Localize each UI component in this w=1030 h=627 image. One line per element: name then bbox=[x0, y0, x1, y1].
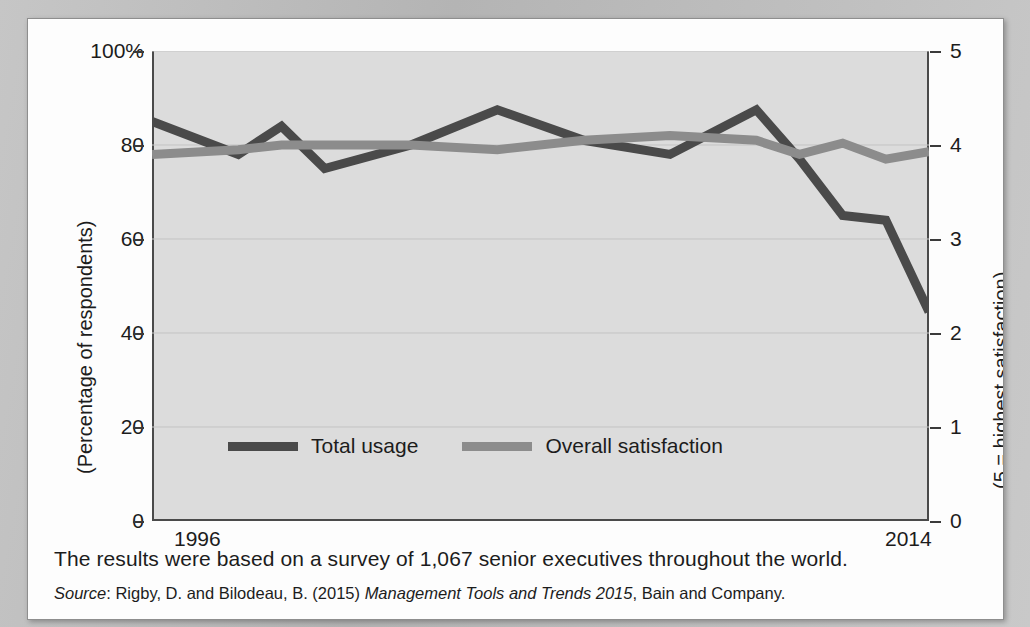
chart-legend: Total usageOverall satisfaction bbox=[228, 434, 723, 458]
y-axis-right-ticks: 012345 bbox=[936, 51, 996, 521]
figure-note: The results were based on a survey of 1,… bbox=[54, 547, 848, 571]
source-authors: Rigby, D. and Bilodeau, B. (2015) bbox=[115, 584, 364, 602]
chart-figure: 020406080100% 012345 (Percentage of resp… bbox=[28, 19, 1003, 619]
y-right-tick-mark bbox=[930, 51, 941, 53]
y-right-tick-2: 2 bbox=[950, 322, 962, 343]
y-left-tick-mark bbox=[133, 145, 144, 147]
source-title: Management Tools and Trends 2015 bbox=[365, 584, 633, 602]
y-left-tick-mark bbox=[133, 427, 144, 429]
y-left-tick-mark bbox=[133, 51, 144, 53]
y-right-tick-4: 4 bbox=[950, 134, 962, 155]
y-axis-left-title: (Percentage of respondents) bbox=[74, 221, 97, 475]
legend-item-total-usage: Total usage bbox=[228, 434, 418, 458]
series-lines bbox=[152, 110, 929, 312]
y-right-tick-1: 1 bbox=[950, 416, 962, 437]
legend-label: Overall satisfaction bbox=[545, 434, 722, 458]
x-axis-label-end: 2014 bbox=[885, 527, 932, 551]
figure-source: Source: Rigby, D. and Bilodeau, B. (2015… bbox=[54, 584, 785, 603]
source-label: Source bbox=[54, 584, 106, 602]
y-right-tick-mark bbox=[930, 239, 941, 241]
legend-swatch-icon bbox=[462, 442, 532, 451]
y-axis-right-title: (5 = highest satisfaction) bbox=[990, 272, 1004, 489]
y-right-tick-mark bbox=[930, 333, 941, 335]
y-left-tick-mark bbox=[133, 521, 144, 523]
page-sheet: 020406080100% 012345 (Percentage of resp… bbox=[27, 18, 1004, 620]
y-right-tick-mark bbox=[930, 145, 941, 147]
legend-swatch-icon bbox=[228, 442, 298, 451]
y-right-tick-5: 5 bbox=[950, 40, 962, 61]
y-left-tick-mark bbox=[133, 333, 144, 335]
y-right-tick-3: 3 bbox=[950, 228, 962, 249]
source-publisher: , Bain and Company. bbox=[632, 584, 785, 602]
y-right-tick-mark bbox=[930, 427, 941, 429]
y-left-tick-mark bbox=[133, 239, 144, 241]
series-line-total-usage bbox=[152, 110, 929, 312]
y-right-tick-mark bbox=[930, 521, 941, 523]
legend-label: Total usage bbox=[311, 434, 418, 458]
y-right-tick-0: 0 bbox=[950, 510, 962, 531]
legend-item-overall-satisfaction: Overall satisfaction bbox=[462, 434, 722, 458]
scanned-page-background: 020406080100% 012345 (Percentage of resp… bbox=[0, 0, 1030, 627]
gridlines bbox=[152, 51, 929, 427]
